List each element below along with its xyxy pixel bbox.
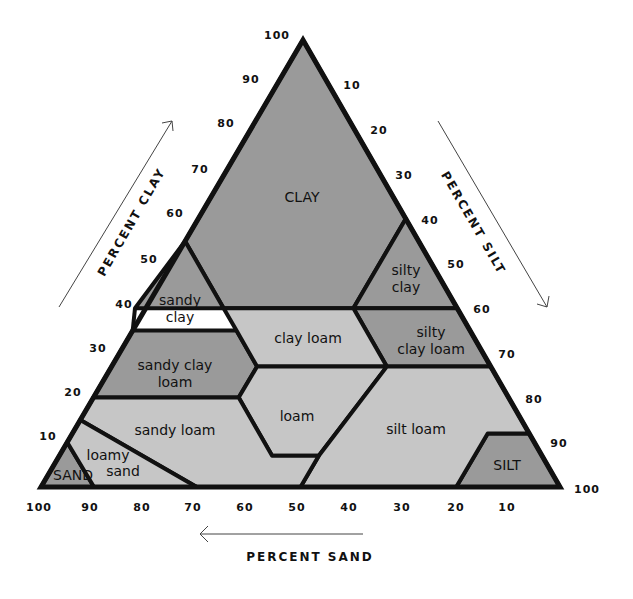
label-sandy-loam: sandy loam — [134, 422, 215, 438]
label-clay-loam: clay loam — [274, 330, 342, 346]
axis-title-sand: PERCENT SAND — [246, 550, 374, 564]
clay-tick-100: 100 — [264, 29, 290, 42]
sand-tick-100: 100 — [26, 501, 52, 514]
clay-tick-80: 80 — [217, 117, 234, 130]
silt-tick-10: 10 — [343, 79, 360, 92]
soil-texture-triangle: CLAY silty clay sandy clay clay loam sil… — [0, 0, 633, 599]
region-clay — [185, 40, 406, 308]
label-sandy-clay: sandy — [159, 292, 201, 308]
silt-arrow-icon — [438, 121, 549, 307]
sand-tick-30: 30 — [393, 501, 410, 514]
label-sandy-clay-loam-2: loam — [158, 374, 193, 390]
clay-tick-10: 10 — [39, 430, 56, 443]
label-loamy-sand-2: sand — [106, 463, 140, 479]
sand-tick-10: 10 — [498, 501, 515, 514]
label-loam: loam — [280, 408, 315, 424]
sand-tick-80: 80 — [133, 501, 150, 514]
label-silty-clay-2: clay — [392, 279, 420, 295]
clay-tick-50: 50 — [140, 253, 157, 266]
sand-tick-20: 20 — [447, 501, 464, 514]
clay-tick-70: 70 — [191, 163, 208, 176]
sand-arrow-icon — [200, 526, 363, 542]
label-silty-clay: silty — [392, 262, 421, 278]
sand-tick-60: 60 — [236, 501, 253, 514]
label-loamy-sand: loamy — [87, 447, 130, 463]
label-sandy-clay-loam: sandy clay — [138, 357, 213, 373]
sand-tick-40: 40 — [340, 501, 357, 514]
label-silty-clay-loam-2: clay loam — [397, 341, 465, 357]
label-sand: SAND — [53, 467, 93, 483]
label-silt: SILT — [493, 457, 521, 473]
clay-tick-40: 40 — [115, 298, 132, 311]
clay-tick-30: 30 — [89, 342, 106, 355]
silt-tick-20: 20 — [370, 124, 387, 137]
clay-tick-90: 90 — [242, 73, 259, 86]
silt-tick-90: 90 — [550, 437, 567, 450]
silt-tick-50: 50 — [447, 258, 464, 271]
label-silty-clay-loam: silty — [417, 324, 446, 340]
silt-tick-60: 60 — [473, 303, 490, 316]
silt-tick-70: 70 — [498, 348, 515, 361]
sand-tick-70: 70 — [184, 501, 201, 514]
silt-tick-40: 40 — [421, 214, 438, 227]
label-clay: CLAY — [285, 189, 320, 205]
sand-tick-90: 90 — [81, 501, 98, 514]
label-sandy-clay-2: clay — [166, 309, 194, 325]
silt-tick-80: 80 — [525, 393, 542, 406]
sand-tick-50: 50 — [288, 501, 305, 514]
clay-tick-20: 20 — [64, 386, 81, 399]
silt-tick-30: 30 — [395, 169, 412, 182]
silt-tick-100: 100 — [574, 483, 600, 496]
clay-tick-60: 60 — [166, 207, 183, 220]
label-silt-loam: silt loam — [386, 421, 446, 437]
